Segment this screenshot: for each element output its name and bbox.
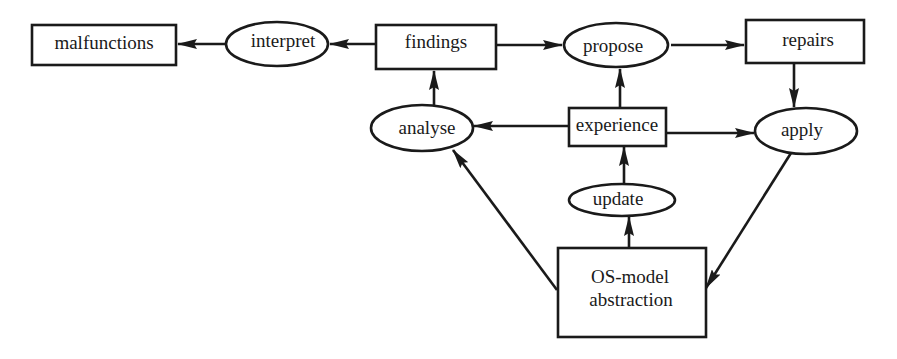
malfunctions-label: malfunctions [54, 32, 153, 53]
node-interpret: interpret [226, 22, 328, 66]
repairs-label: repairs [782, 29, 834, 50]
node-propose: propose [564, 23, 668, 67]
analyse-label: analyse [399, 117, 456, 138]
node-findings: findings [376, 25, 496, 69]
node-repairs: repairs [746, 20, 864, 63]
findings-label: findings [405, 31, 467, 52]
os-model-label-line2: abstraction [589, 289, 673, 310]
node-experience: experience [569, 108, 666, 146]
node-os-model-abstraction: OS-model abstraction [558, 248, 706, 337]
edge-os-model-to-analyse [453, 150, 557, 290]
node-malfunctions: malfunctions [32, 25, 176, 65]
os-model-label-line1: OS-model [591, 266, 669, 287]
process-diagram: malfunctions interpret findings propose … [0, 0, 897, 359]
node-analyse: analyse [371, 105, 473, 151]
interpret-label: interpret [251, 30, 316, 51]
edge-apply-to-os-model [706, 153, 791, 288]
node-update: update [569, 184, 675, 216]
propose-label: propose [583, 35, 643, 56]
experience-label: experience [576, 114, 658, 135]
update-label: update [593, 188, 644, 209]
node-apply: apply [755, 108, 857, 154]
apply-label: apply [781, 119, 824, 140]
